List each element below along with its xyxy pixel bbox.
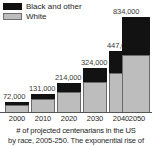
- chart-figure: Black and other White 72,000 131,000 214…: [0, 0, 152, 146]
- x-tick-2020: 2020: [57, 114, 81, 124]
- legend-label-black-and-other: Black and other: [26, 2, 82, 11]
- bar-value-2020: 214,000: [55, 74, 81, 82]
- x-tick-2030: 2030: [83, 114, 107, 124]
- legend-swatch-white-icon: [3, 13, 22, 20]
- bar-group-2020: [57, 83, 81, 113]
- x-tick-2050: 2050: [124, 114, 150, 124]
- caption-line-2: by race, 2005-250. The exponential rise …: [0, 136, 152, 146]
- bar-segment-white-2050: [122, 55, 150, 113]
- bar-value-2000: 72,000: [3, 93, 25, 101]
- bar-group-2010: [31, 94, 55, 113]
- bar-group-2050: [122, 17, 150, 113]
- bar-value-2050: 834,000: [113, 8, 139, 16]
- bar-value-2010: 131,000: [29, 85, 55, 93]
- bar-segment-black-2050: [122, 17, 150, 55]
- bar-segment-white-2030: [83, 82, 107, 113]
- caption-line-1: # of projected centenarians in the US: [0, 126, 152, 136]
- chart-legend: Black and other White: [3, 2, 82, 22]
- bar-value-2030: 324,000: [81, 59, 107, 67]
- legend-item-black-and-other: Black and other: [3, 2, 82, 11]
- bar-segment-white-2020: [57, 92, 81, 113]
- legend-item-white: White: [3, 12, 82, 21]
- bar-segment-white-2010: [31, 99, 55, 113]
- legend-swatch-black-icon: [3, 3, 22, 10]
- bar-segment-black-2030: [83, 68, 107, 82]
- x-axis-tick-labels: 2000 2010 2020 2030 2040 2050: [0, 114, 152, 125]
- bar-group-2030: [83, 68, 107, 113]
- bar-segment-black-2020: [57, 83, 81, 92]
- x-tick-2000: 2000: [5, 114, 29, 124]
- legend-label-white: White: [26, 12, 46, 21]
- chart-caption: # of projected centenarians in the US by…: [0, 126, 152, 145]
- x-axis-line: [0, 112, 152, 113]
- x-tick-2010: 2010: [31, 114, 55, 124]
